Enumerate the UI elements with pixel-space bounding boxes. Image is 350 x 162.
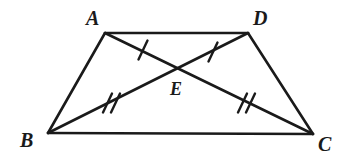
vertex-label-b: B — [20, 130, 33, 150]
geometry-diagram: A D B C E — [0, 0, 350, 162]
vertex-label-d: D — [253, 8, 267, 28]
vertex-label-a: A — [86, 8, 99, 28]
vertex-label-c: C — [318, 134, 331, 154]
segment-BC — [48, 133, 313, 134]
segment-DB-diagonal — [48, 33, 248, 133]
vertex-label-e: E — [170, 80, 182, 98]
